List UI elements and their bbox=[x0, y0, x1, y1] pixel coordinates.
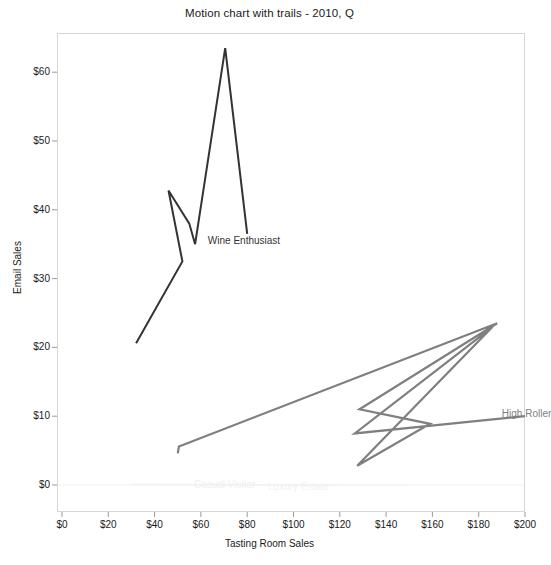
tick-marks bbox=[52, 72, 525, 517]
y-tick-label: $50 bbox=[6, 135, 50, 146]
series-label-luxury-estate: Luxury Estate bbox=[268, 481, 329, 492]
y-tick-label: $60 bbox=[6, 66, 50, 77]
x-tick-label: $180 bbox=[457, 519, 501, 530]
series-trail-wine-enthusiast bbox=[136, 48, 247, 343]
series-trails bbox=[131, 48, 525, 485]
y-tick-label: $0 bbox=[6, 479, 50, 490]
series-label-high-roller: High Roller bbox=[502, 408, 551, 419]
x-tick-label: $40 bbox=[133, 519, 177, 530]
x-tick-label: $140 bbox=[364, 519, 408, 530]
series-label-wine-enthusiast: Wine Enthusiast bbox=[208, 235, 280, 246]
x-tick-label: $100 bbox=[272, 519, 316, 530]
x-tick-label: $0 bbox=[40, 519, 84, 530]
y-tick-label: $10 bbox=[6, 410, 50, 421]
x-tick-label: $80 bbox=[225, 519, 269, 530]
x-tick-label: $200 bbox=[503, 519, 547, 530]
y-tick-label: $40 bbox=[6, 204, 50, 215]
y-tick-label: $20 bbox=[6, 341, 50, 352]
x-tick-label: $20 bbox=[86, 519, 130, 530]
x-axis-title: Tasting Room Sales bbox=[0, 538, 539, 549]
series-label-casual-visitor: Casual Visitor bbox=[194, 479, 256, 490]
series-trail-high-roller bbox=[178, 323, 525, 465]
x-tick-label: $60 bbox=[179, 519, 223, 530]
x-tick-label: $160 bbox=[410, 519, 454, 530]
x-tick-label: $120 bbox=[318, 519, 362, 530]
y-axis-title: Email Sales bbox=[12, 228, 23, 308]
